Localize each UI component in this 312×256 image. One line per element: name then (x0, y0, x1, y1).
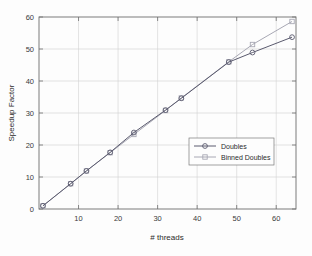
y-tick-label: 60 (26, 13, 34, 22)
series-marker (41, 203, 46, 208)
y-tick-label: 40 (26, 77, 34, 86)
y-tick-labels: 0102030405060 (26, 13, 34, 214)
series-line (43, 37, 292, 206)
x-axis-title: # threads (150, 233, 183, 242)
y-axis-title: Speedup Factor (7, 84, 16, 141)
legend-label[interactable]: Doubles (221, 143, 247, 150)
legend[interactable]: DoublesBinned Doubles (189, 138, 274, 165)
x-tick-labels: 102030405060 (74, 214, 280, 223)
x-tick-label: 40 (193, 214, 201, 223)
x-tick-label: 30 (153, 214, 161, 223)
y-tick-label: 0 (30, 205, 34, 214)
x-tick-label: 20 (114, 214, 122, 223)
x-tick-label: 50 (233, 214, 241, 223)
y-tick-label: 20 (26, 141, 34, 150)
x-tick-label: 60 (272, 214, 280, 223)
y-tick-label: 10 (26, 173, 34, 182)
chart-canvas: 0102030405060 102030405060 # threads Spe… (0, 0, 312, 256)
y-tick-label: 50 (26, 45, 34, 54)
x-tick-label: 10 (74, 214, 82, 223)
series-marker (290, 35, 295, 40)
y-tick-label: 30 (26, 109, 34, 118)
figure-container: 0102030405060 102030405060 # threads Spe… (0, 0, 312, 256)
legend-label[interactable]: Binned Doubles (221, 154, 271, 161)
